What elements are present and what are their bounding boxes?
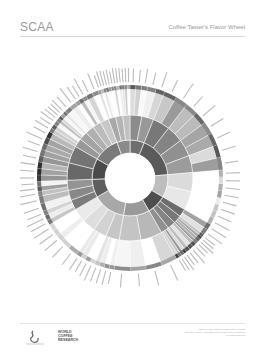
wheel-label-tick [203, 240, 213, 249]
wheel-label-tick [185, 257, 194, 270]
wcr-logo: WORLD COFFEE RESEARCH [58, 330, 78, 342]
wheel-segment-edge [218, 184, 223, 191]
wheel-label-tick [155, 271, 159, 285]
wheel-label-tick [171, 265, 178, 280]
wheel-segment-edge [125, 85, 128, 89]
wheel-label-tick [20, 189, 35, 191]
wheel-label-tick [52, 247, 63, 258]
wheel-label-tick [28, 214, 42, 220]
wheel-label-tick [20, 194, 35, 197]
wheel-label-tick [34, 229, 49, 238]
wheel-label-tick [57, 97, 66, 107]
wheel-label-tick [62, 254, 71, 265]
wheel-label-tick [194, 96, 203, 106]
wheel-label-tick [217, 132, 230, 138]
wheel-label-tick [225, 161, 238, 163]
wheel-label-tick [222, 146, 235, 150]
wheel-segment-edge [37, 181, 41, 186]
wheel-label-tick [205, 238, 215, 246]
wheel-label-tick [90, 268, 95, 282]
wheel-label-tick [211, 118, 223, 126]
wheel-label-tick [162, 72, 167, 87]
wheel-label-tick [80, 263, 86, 276]
wheel-label-tick [203, 105, 215, 115]
wheel-label-tick [116, 68, 118, 83]
wheel-label-tick [20, 170, 34, 171]
flavor-wheel-chart [20, 68, 240, 288]
header: SCAA Coffee Taster's Flavor Wheel [20, 20, 245, 37]
wheel-label-tick [139, 70, 140, 82]
wheel-label-tick [24, 208, 39, 213]
wheel-label-tick [226, 173, 240, 174]
wheel-label-tick [27, 219, 43, 227]
wheel-segment-edge [37, 175, 41, 181]
wheel-segment-edge [219, 177, 223, 184]
scaa-logo-icon [24, 329, 46, 345]
wheel-label-tick [72, 86, 79, 97]
wheel-label-tick [34, 127, 45, 133]
wheel-label-tick [40, 117, 50, 124]
wheel-segment-edge [37, 186, 42, 191]
page-title: Coffee Taster's Flavor Wheel [168, 24, 245, 30]
wheel-label-tick [102, 271, 106, 285]
wheel-segment-edge [136, 85, 142, 90]
wheel-segment-edge [219, 170, 223, 177]
wheel-label-tick [82, 80, 88, 92]
wheel-label-tick [40, 235, 53, 245]
wheel-segment-edge [127, 85, 130, 89]
wheel-segment-edge [37, 168, 41, 175]
wheel-label-tick [48, 107, 58, 115]
wheel-label-tick [26, 132, 42, 139]
wheel-label-tick [84, 266, 91, 281]
wheel-label-tick [120, 274, 121, 288]
wheel-label-tick [138, 274, 139, 286]
wheel-center [105, 153, 155, 203]
fine-print: Official Coffee Taster's Flavor Wheel cr… [159, 328, 245, 337]
wheel-label-tick [224, 195, 238, 198]
wheel-label-tick [215, 223, 230, 231]
wheel-label-tick [221, 209, 235, 214]
wheel-label-tick [106, 69, 109, 84]
wheel-label-tick [45, 240, 57, 250]
wcr-line-3: RESEARCH [58, 338, 78, 342]
wheel-label-tick [193, 250, 204, 263]
wheel-label-tick [69, 258, 77, 270]
wheel-label-tick [28, 141, 40, 145]
wheel-label-tick [51, 104, 60, 112]
wheel-label-tick [125, 68, 126, 82]
wheel-label-tick [74, 79, 83, 95]
wheel-label-tick [75, 261, 81, 272]
wheel-label-tick [223, 202, 236, 206]
wheel-label-tick [225, 188, 240, 190]
wheel-label-tick [182, 259, 189, 270]
wheel-label-tick [20, 201, 36, 205]
wheel-label-tick [183, 83, 193, 98]
wheel-label-tick [88, 73, 94, 89]
fine-print-line: all rights reserved [159, 334, 245, 337]
wheel-label-tick [212, 229, 227, 238]
wheel-label-tick [21, 163, 35, 165]
wheel-label-tick [31, 224, 46, 232]
wheel-segment-edge [38, 191, 43, 197]
wheel-label-tick [108, 272, 110, 284]
wheel-label-tick [110, 71, 112, 83]
wheel-label-tick [112, 68, 115, 83]
wheel-label-tick [21, 184, 34, 185]
wheel-label-tick [172, 80, 178, 92]
brand-title: SCAA [20, 20, 54, 34]
wheel-label-tick [208, 234, 222, 244]
wheel-label-tick [145, 69, 147, 83]
wheel-label-tick [122, 69, 123, 82]
footer: WORLD COFFEE RESEARCH Official Coffee Ta… [20, 323, 245, 348]
wheel-label-tick [218, 216, 231, 222]
wheel-label-tick [118, 68, 120, 82]
wheel-segment-edge [130, 85, 136, 89]
wheel-segment-edge [122, 85, 125, 89]
wheel-label-tick [96, 269, 100, 283]
wheel-label-tick [23, 147, 38, 151]
wheel-label-tick [153, 73, 156, 85]
wheel-label-tick [23, 155, 36, 158]
